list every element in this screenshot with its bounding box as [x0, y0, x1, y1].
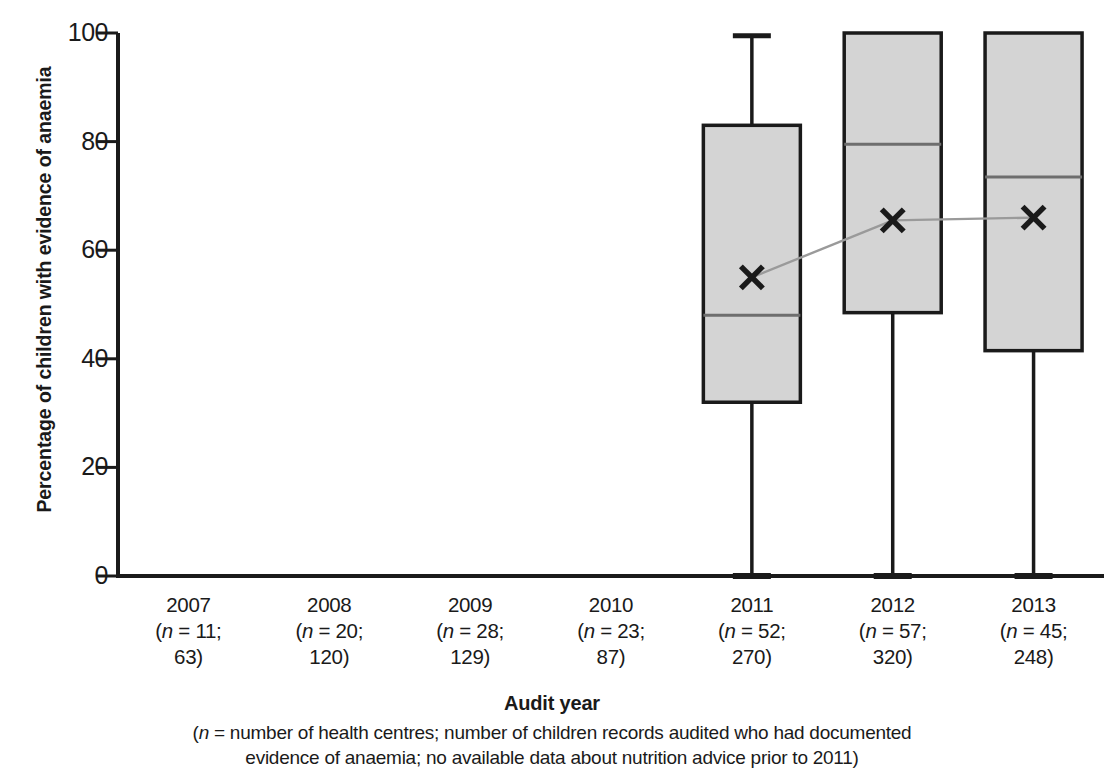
- x-axis-tick-label-year: 2011: [681, 592, 822, 618]
- x-axis-tick-label-n-line2: 320): [822, 644, 963, 670]
- x-axis-tick-label-n-line2: 270): [681, 644, 822, 670]
- italic-n: n: [725, 619, 736, 642]
- x-axis-tick-label-group: 2007(n = 11;63): [118, 592, 259, 670]
- italic-n: n: [162, 619, 173, 642]
- x-axis-tick-label-year: 2007: [118, 592, 259, 618]
- x-axis-tick-label-n-line1: (n = 45;: [963, 618, 1104, 644]
- italic-n: n: [199, 722, 209, 743]
- x-axis-tick-label-year: 2009: [400, 592, 541, 618]
- x-axis-tick-label-n-line2: 63): [118, 644, 259, 670]
- x-axis-tick-label-n-line1: (n = 52;: [681, 618, 822, 644]
- x-axis-tick-label-group: 2009(n = 28;129): [400, 592, 541, 670]
- italic-n: n: [302, 619, 313, 642]
- x-axis-tick-label-year: 2010: [541, 592, 682, 618]
- x-axis-tick-label-n-line1: (n = 20;: [259, 618, 400, 644]
- italic-n: n: [584, 619, 595, 642]
- x-axis-tick-label-year: 2013: [963, 592, 1104, 618]
- italic-n: n: [1006, 619, 1017, 642]
- x-axis-tick-label-year: 2012: [822, 592, 963, 618]
- x-axis-tick-label-year: 2008: [259, 592, 400, 618]
- x-axis-tick-label-group: 2012(n = 57;320): [822, 592, 963, 670]
- x-axis-tick-label-n-line2: 120): [259, 644, 400, 670]
- x-axis-caption-line-1: (n = number of health centres; number of…: [0, 720, 1104, 745]
- x-axis-tick-label-group: 2008(n = 20;120): [259, 592, 400, 670]
- italic-n: n: [443, 619, 454, 642]
- x-axis-tick-label-n-line2: 129): [400, 644, 541, 670]
- figure-boxplot: Percentage of children with evidence of …: [0, 0, 1104, 770]
- x-axis-tick-label-n-line1: (n = 28;: [400, 618, 541, 644]
- x-axis-tick-label-n-line1: (n = 57;: [822, 618, 963, 644]
- box-iqr: [844, 33, 941, 313]
- box-iqr: [985, 33, 1082, 351]
- x-axis-tick-label-n-line1: (n = 11;: [118, 618, 259, 644]
- x-axis-caption-line-2: evidence of anaemia; no available data a…: [0, 745, 1104, 770]
- x-axis-tick-label-n-line2: 87): [541, 644, 682, 670]
- x-axis-tick-label-group: 2013(n = 45;248): [963, 592, 1104, 670]
- x-axis-title: Audit year: [0, 692, 1104, 715]
- x-axis-tick-label-n-line1: (n = 23;: [541, 618, 682, 644]
- x-axis-tick-label-n-line2: 248): [963, 644, 1104, 670]
- x-axis-tick-label-group: 2010(n = 23;87): [541, 592, 682, 670]
- x-axis-tick-label-group: 2011(n = 52;270): [681, 592, 822, 670]
- italic-n: n: [865, 619, 876, 642]
